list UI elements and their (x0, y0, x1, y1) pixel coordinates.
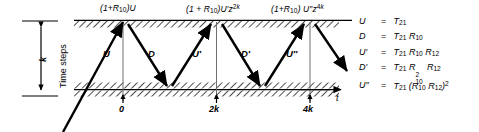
zigzag-path (128, 24, 347, 86)
outgoing-ray (315, 24, 347, 71)
ray-label-U-prime: U′ (192, 48, 201, 59)
top-label-0: (1+R10)U (100, 3, 136, 13)
ray-label-U: U (103, 48, 110, 59)
legend-row-U: U= T21 (359, 14, 449, 29)
side-label-time-steps: Time steps (58, 44, 68, 88)
ray-label-D-prime: D′ (241, 48, 250, 59)
formula-legend: U= T21 D= T21 R10 U′= T21 R10 R12 D′= T2… (359, 14, 449, 91)
ray-diagram: (1+R10)U (1 + R10)U′z2k (1+R10) U″z4k U … (0, 0, 479, 132)
tick-label-4k: 4k (303, 104, 313, 114)
legend-row-U-double-prime: U″= T21 (R10 R12)2 (359, 76, 449, 91)
ray-label-U-double-prime: U″ (286, 48, 297, 59)
side-label-k: k (38, 57, 48, 62)
ray-segment-U-double-prime (265, 24, 304, 86)
top-label-2k: (1 + R10)U′z2k (186, 3, 240, 14)
top-label-4k: (1+R10) U″z4k (271, 3, 324, 14)
tick-label-2k: 2k (209, 104, 219, 114)
bottom-interface (74, 83, 339, 97)
axis-label-t: t (336, 93, 339, 103)
legend-row-U-prime: U′= T21 R10 R12 (359, 45, 449, 60)
legend-row-D-prime: D′= T21 R210 R12 (359, 60, 449, 75)
incoming-ray (63, 22, 123, 132)
tick-label-0: 0 (119, 104, 124, 114)
ray-label-D: D (148, 48, 155, 59)
legend-row-D: D= T21 R10 (359, 29, 449, 44)
